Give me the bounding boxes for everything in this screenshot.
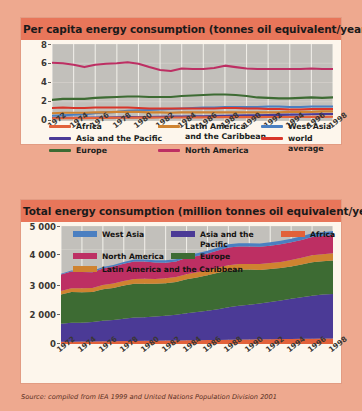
legend2-label-africa: Africa [310, 230, 335, 240]
legend2-swatch-north-america [73, 253, 97, 259]
legend2-label-west-asia: West Asia [102, 230, 144, 240]
legend2-swatch-west-asia [73, 231, 97, 237]
legend2-label-latin-america: Latin America and the Caribbean [102, 265, 243, 275]
legend-item-west-asia: West Asia [261, 122, 331, 132]
legend2-swatch-africa [281, 231, 305, 237]
chart1-ytick-6: 6 [21, 58, 47, 68]
legend2-swatch-asia-pacific [171, 231, 195, 237]
chart2-ytick-4000: 4 000 [21, 250, 56, 260]
chart2-ytick-5000: 5 000 [21, 222, 56, 232]
legend-swatch-africa [49, 125, 71, 129]
figure-page: Per capita energy consumption (tonnes oi… [0, 0, 362, 411]
legend-label-north-america: North America [185, 146, 249, 156]
legend-label-asia-pacific: Asia and the Pacific [76, 134, 162, 144]
legend-item-europe: Europe [49, 146, 107, 156]
chart2-plot-area: 5 000 4 000 3 000 2 000 0 West Asia [21, 222, 341, 379]
legend2-row-3: Latin America and the Caribbean [73, 265, 335, 275]
chart1-title: Per capita energy consumption (tonnes oi… [21, 18, 341, 40]
chart2-ytick-3000: 3 000 [21, 281, 56, 291]
legend2-label-asia-pacific: Asia and the Pacific [200, 230, 281, 249]
legend2-row-1: West Asia Asia and the Pacific Africa [73, 230, 335, 249]
chart1-plot [52, 44, 333, 121]
legend-swatch-latin-america [158, 125, 180, 129]
legend-item-africa: Africa [49, 122, 102, 132]
legend2-swatch-europe [171, 253, 195, 259]
legend2-label-europe: Europe [200, 252, 230, 262]
chart1-svg [52, 44, 333, 121]
legend-swatch-europe [49, 149, 71, 153]
chart2-legend: West Asia Asia and the Pacific Africa No… [73, 230, 335, 274]
chart1-ytick-8: 8 [21, 40, 47, 50]
per-capita-chart-panel: Per capita energy consumption (tonnes oi… [21, 18, 341, 144]
chart1-ytick-2: 2 [21, 96, 47, 106]
legend-label-europe: Europe [76, 146, 107, 156]
legend2-swatch-latin-america [73, 266, 97, 272]
chart2-xtick-1972: 1972 [55, 334, 77, 354]
legend-label-west-asia: West Asia [288, 122, 331, 132]
legend-label-latin-america: Latin America and the Caribbean [185, 122, 266, 141]
legend-item-north-america: North America [158, 146, 249, 156]
source-note: Source: compiled from IEA 1999 and Unite… [21, 393, 277, 401]
legend-swatch-west-asia [261, 125, 283, 129]
legend-item-asia-pacific: Asia and the Pacific [49, 134, 162, 144]
chart1-legend: Africa Asia and the Pacific Europe Latin… [21, 122, 341, 162]
chart2-title: Total energy consumption (million tonnes… [21, 200, 341, 222]
total-energy-chart-panel: Total energy consumption (million tonnes… [21, 200, 341, 383]
legend2-row-2: North America Europe [73, 252, 335, 262]
legend-label-africa: Africa [76, 122, 102, 132]
chart2-ytick-0: 0 [21, 339, 56, 349]
legend-item-world-average: world average [261, 134, 341, 153]
legend2-label-north-america: North America [102, 252, 164, 262]
legend-label-world-average: world average [288, 134, 341, 153]
legend-item-latin-america: Latin America and the Caribbean [158, 122, 266, 141]
legend-swatch-world-average [261, 137, 283, 141]
chart1-ytick-4: 4 [21, 77, 47, 87]
chart2-ytick-2000: 2 000 [21, 310, 56, 320]
legend-swatch-asia-pacific [49, 137, 71, 141]
legend-swatch-north-america [158, 149, 180, 153]
